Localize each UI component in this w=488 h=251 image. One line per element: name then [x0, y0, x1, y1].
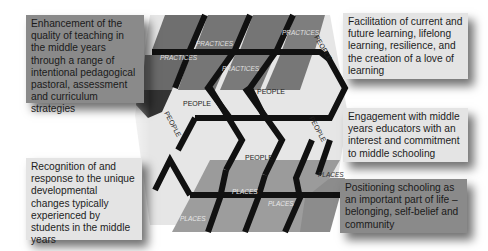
people-label: PEOPLE: [257, 88, 285, 95]
text-box-educators: Engagement with middle years educators w…: [343, 108, 468, 162]
people-label: PEOPLE: [245, 154, 273, 161]
places-label: PLACES: [180, 215, 206, 222]
people-label: PEOPLE: [183, 100, 211, 107]
practices-label: PRACTICES: [160, 54, 198, 61]
practices-label: PRACTICES: [196, 40, 234, 47]
places-label: PLACES: [232, 188, 258, 195]
middle-years-diagram: PRACTICES PRACTICES PRACTICES PRACTICES …: [0, 0, 488, 251]
text-box-learning: Facilitation of current and future learn…: [343, 13, 468, 79]
places-label: PLACES: [268, 200, 294, 207]
places-label: PLACES: [318, 171, 344, 178]
text-box-teaching-quality: Enhancement of the quality of teaching i…: [26, 15, 144, 103]
practices-label: PRACTICES: [222, 65, 260, 72]
text-box-belonging: Positioning schooling as an important pa…: [340, 179, 467, 233]
practices-label: PRACTICES: [282, 29, 320, 36]
text-box-developmental-changes: Recognition of and response to the uniqu…: [26, 158, 142, 240]
